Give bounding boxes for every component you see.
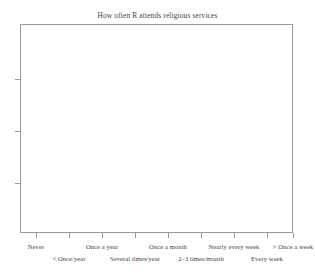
x-label-less-than-once-year: < Once/year [52, 255, 85, 263]
x-tick-2-3-times-month [201, 233, 202, 238]
plot-data-area [21, 25, 292, 232]
x-tick-more-than-once-week [293, 233, 294, 238]
x-tick-once-a-month [168, 233, 169, 238]
x-label-several-times-year: Several times/year [110, 255, 160, 263]
chart-figure: How often R attends religious services N… [0, 0, 315, 274]
x-label-every-week: Every week [251, 255, 283, 263]
x-label-nearly-every-week: Nearly every week [209, 243, 260, 251]
x-tick-nearly-every-week [234, 233, 235, 238]
x-tick-every-week [267, 233, 268, 238]
x-label-never: Never [28, 243, 44, 251]
x-label-once-a-year: Once a year [86, 243, 118, 251]
chart-title: How often R attends religious services [0, 11, 315, 20]
plot-panel [20, 24, 293, 233]
x-tick-several-times-year [135, 233, 136, 238]
x-label-2-3-times-month: 2–3 times/month [178, 255, 224, 263]
x-tick-never [36, 233, 37, 238]
x-tick-less-than-once-year [69, 233, 70, 238]
x-label-once-a-month: Once a month [149, 243, 187, 251]
x-label-more-than-once-week: > Once a week [273, 243, 313, 251]
x-tick-once-a-year [102, 233, 103, 238]
